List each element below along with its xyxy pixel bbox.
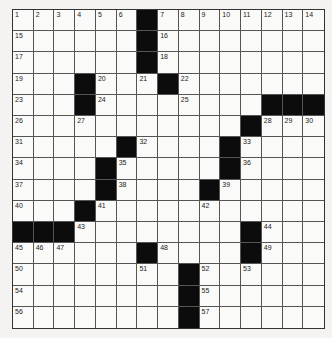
grid-cell[interactable] (96, 116, 117, 137)
grid-cell[interactable] (75, 264, 96, 285)
grid-cell[interactable] (34, 52, 55, 73)
grid-cell[interactable] (96, 222, 117, 243)
grid-cell[interactable] (262, 264, 283, 285)
grid-cell[interactable] (303, 180, 324, 201)
grid-cell[interactable]: 38 (117, 180, 138, 201)
grid-cell[interactable] (283, 243, 304, 264)
grid-cell[interactable] (137, 95, 158, 116)
grid-cell[interactable] (241, 52, 262, 73)
grid-cell[interactable] (117, 264, 138, 285)
grid-cell[interactable] (303, 201, 324, 222)
grid-cell[interactable] (200, 222, 221, 243)
grid-cell[interactable] (283, 31, 304, 52)
grid-cell[interactable]: 19 (13, 74, 34, 95)
grid-cell[interactable]: 14 (303, 10, 324, 31)
grid-cell[interactable]: 56 (13, 307, 34, 328)
grid-cell[interactable] (200, 137, 221, 158)
grid-cell[interactable]: 25 (179, 95, 200, 116)
grid-cell[interactable] (303, 243, 324, 264)
grid-cell[interactable] (117, 31, 138, 52)
grid-cell[interactable] (96, 264, 117, 285)
grid-cell[interactable] (303, 158, 324, 179)
grid-cell[interactable] (241, 307, 262, 328)
grid-cell[interactable] (241, 31, 262, 52)
grid-cell[interactable] (303, 52, 324, 73)
grid-cell[interactable] (96, 307, 117, 328)
grid-cell[interactable] (262, 74, 283, 95)
grid-cell[interactable] (54, 201, 75, 222)
grid-cell[interactable]: 15 (13, 31, 34, 52)
grid-cell[interactable]: 35 (117, 158, 138, 179)
grid-cell[interactable] (262, 307, 283, 328)
grid-cell[interactable]: 27 (75, 116, 96, 137)
grid-cell[interactable] (200, 116, 221, 137)
grid-cell[interactable]: 36 (241, 158, 262, 179)
grid-cell[interactable] (158, 201, 179, 222)
grid-cell[interactable] (158, 95, 179, 116)
grid-cell[interactable] (179, 31, 200, 52)
grid-cell[interactable]: 50 (13, 264, 34, 285)
grid-cell[interactable]: 39 (220, 180, 241, 201)
grid-cell[interactable]: 7 (158, 10, 179, 31)
grid-cell[interactable]: 22 (179, 74, 200, 95)
grid-cell[interactable] (158, 307, 179, 328)
grid-cell[interactable]: 42 (200, 201, 221, 222)
grid-cell[interactable] (54, 264, 75, 285)
grid-cell[interactable] (283, 264, 304, 285)
grid-cell[interactable] (158, 158, 179, 179)
grid-cell[interactable] (34, 95, 55, 116)
grid-cell[interactable] (303, 264, 324, 285)
grid-cell[interactable] (200, 158, 221, 179)
grid-cell[interactable] (75, 158, 96, 179)
grid-cell[interactable]: 24 (96, 95, 117, 116)
grid-cell[interactable] (137, 180, 158, 201)
grid-cell[interactable] (54, 31, 75, 52)
grid-cell[interactable] (283, 158, 304, 179)
grid-cell[interactable]: 49 (262, 243, 283, 264)
grid-cell[interactable]: 16 (158, 31, 179, 52)
grid-cell[interactable] (179, 222, 200, 243)
grid-cell[interactable] (262, 201, 283, 222)
grid-cell[interactable] (54, 95, 75, 116)
grid-cell[interactable] (34, 158, 55, 179)
grid-cell[interactable]: 4 (75, 10, 96, 31)
grid-cell[interactable] (117, 222, 138, 243)
grid-cell[interactable] (117, 286, 138, 307)
grid-cell[interactable] (75, 137, 96, 158)
grid-cell[interactable] (179, 158, 200, 179)
grid-cell[interactable]: 44 (262, 222, 283, 243)
grid-cell[interactable] (54, 180, 75, 201)
grid-cell[interactable] (303, 74, 324, 95)
grid-cell[interactable] (220, 95, 241, 116)
grid-cell[interactable]: 53 (241, 264, 262, 285)
grid-cell[interactable] (96, 243, 117, 264)
grid-cell[interactable] (220, 222, 241, 243)
grid-cell[interactable]: 48 (158, 243, 179, 264)
grid-cell[interactable] (241, 201, 262, 222)
grid-cell[interactable] (117, 307, 138, 328)
grid-cell[interactable]: 52 (200, 264, 221, 285)
grid-cell[interactable] (262, 158, 283, 179)
grid-cell[interactable] (34, 137, 55, 158)
grid-cell[interactable] (220, 201, 241, 222)
grid-cell[interactable]: 9 (200, 10, 221, 31)
grid-cell[interactable] (137, 116, 158, 137)
grid-cell[interactable] (220, 31, 241, 52)
grid-cell[interactable]: 10 (220, 10, 241, 31)
grid-cell[interactable]: 33 (241, 137, 262, 158)
grid-cell[interactable] (179, 52, 200, 73)
grid-cell[interactable] (283, 307, 304, 328)
grid-cell[interactable] (34, 264, 55, 285)
grid-cell[interactable] (220, 74, 241, 95)
grid-cell[interactable] (262, 180, 283, 201)
grid-cell[interactable] (262, 137, 283, 158)
grid-cell[interactable]: 31 (13, 137, 34, 158)
grid-cell[interactable] (75, 243, 96, 264)
grid-cell[interactable] (220, 286, 241, 307)
grid-cell[interactable] (262, 52, 283, 73)
grid-cell[interactable] (75, 52, 96, 73)
grid-cell[interactable]: 18 (158, 52, 179, 73)
grid-cell[interactable] (117, 95, 138, 116)
grid-cell[interactable] (283, 52, 304, 73)
grid-cell[interactable] (34, 116, 55, 137)
